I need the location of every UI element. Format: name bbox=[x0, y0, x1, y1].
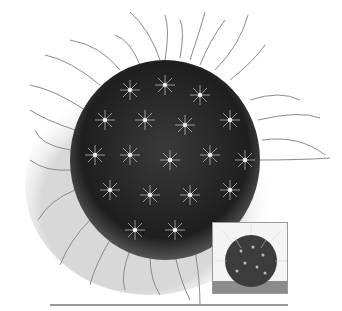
inset-side-view-image bbox=[212, 222, 288, 294]
cactus-photo bbox=[0, 0, 342, 311]
cactus-main-image bbox=[0, 0, 342, 311]
ground-line bbox=[50, 304, 288, 306]
